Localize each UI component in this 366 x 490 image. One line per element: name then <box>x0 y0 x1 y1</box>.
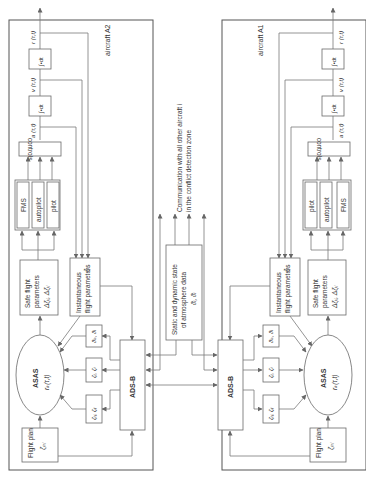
svg-text:∫•dt: ∫•dt <box>331 104 338 114</box>
svg-text:ζᵢ, ζᵢ: ζᵢ, ζᵢ <box>91 367 98 378</box>
communication-label-line2: in the conflict detection zone <box>185 130 192 212</box>
svg-text:ADS-B: ADS-B <box>129 376 136 398</box>
svg-text:ϑₒ, ϑᵢ: ϑₒ, ϑᵢ <box>91 330 97 343</box>
svg-text:ζᵢ, ζᵢ: ζᵢ, ζᵢ <box>268 367 275 378</box>
svg-text:∫•dt: ∫•dt <box>38 104 45 114</box>
svg-text:ζᵢⱼ, ζᵢⱼ: ζᵢⱼ, ζᵢⱼ <box>91 407 98 420</box>
aircraft-a2-label: aircraft A2 <box>104 24 111 56</box>
asas-ellipse-a2 <box>16 335 64 415</box>
position-label-a1: r (τ,t) <box>338 31 344 44</box>
svg-text:Safe flight: Safe flight <box>24 279 32 308</box>
svg-text:autopilot: autopilot <box>323 197 331 222</box>
svg-text:Instantaneous: Instantaneous <box>75 271 82 313</box>
svg-text:ζₚⱼ: ζₚⱼ <box>39 442 47 450</box>
svg-text:rₖ(τ,t): rₖ(τ,t) <box>331 374 339 390</box>
svg-text:ζᵢⱼ, ζᵢⱼ: ζᵢⱼ, ζᵢⱼ <box>268 407 275 420</box>
svg-text:∫•dt: ∫•dt <box>331 57 338 67</box>
svg-text:parameters: parameters <box>33 274 41 308</box>
svg-text:rₖ(τ,t): rₖ(τ,t) <box>43 374 51 390</box>
svg-text:ζₚⱼ: ζₚⱼ <box>327 442 335 450</box>
svg-text:Safe flight: Safe flight <box>312 279 320 308</box>
velocity-label-a2: v (τ,t) <box>30 78 36 92</box>
svg-text:Instantaneous: Instantaneous <box>275 271 282 313</box>
aircraft-a1-label: aircraft A1 <box>257 24 264 56</box>
svg-text:pilot: pilot <box>308 200 316 212</box>
velocity-label-a1: v (τ,t) <box>338 78 344 92</box>
position-label-a2: r (τ,t) <box>30 31 36 44</box>
controls-box-a1 <box>308 142 350 156</box>
svg-text:autopilot: autopilot <box>35 197 43 222</box>
asas-ellipse-a1 <box>304 335 352 415</box>
aircraft-a2-group: aircraft A2 ∫•dt ∫•dt r (τ,t) v (τ,t) a … <box>9 8 153 470</box>
svg-text:ASAS: ASAS <box>32 368 39 388</box>
svg-text:Δζᵢⱼ, Δζᵢⱼ: Δζᵢⱼ, Δζᵢⱼ <box>331 285 339 309</box>
svg-text:pilot: pilot <box>50 200 58 212</box>
svg-text:parameters: parameters <box>321 274 329 308</box>
center-group: Communication with all other aircraft i … <box>146 104 217 385</box>
svg-text:Static and dynamic state: Static and dynamic state <box>171 264 179 335</box>
acceleration-label-a1: a (τ,t) <box>338 123 344 138</box>
svg-text:FMS: FMS <box>20 198 27 212</box>
svg-text:Flight plan: Flight plan <box>315 428 323 458</box>
svg-text:ADS-B: ADS-B <box>227 376 234 398</box>
svg-text:ϑᵢ, ϑᵢ: ϑᵢ, ϑᵢ <box>190 292 197 305</box>
svg-text:∫•dt: ∫•dt <box>38 57 45 67</box>
svg-text:ASAS: ASAS <box>320 368 327 388</box>
controls-box-a2 <box>19 142 61 156</box>
svg-text:Flight plan: Flight plan <box>27 428 35 458</box>
asas-block-diagram: aircraft A2 ∫•dt ∫•dt r (τ,t) v (τ,t) a … <box>0 0 366 490</box>
svg-text:FMS: FMS <box>340 198 347 212</box>
acceleration-label-a2: a (τ,t) <box>30 123 36 138</box>
svg-text:of atmosphere data: of atmosphere data <box>180 272 188 328</box>
aircraft-a1-group: aircraft A1 ∫•dt ∫•dt r (τ,t) v (τ,t) a … <box>218 8 366 470</box>
svg-text:Δζᵢⱼ, Δζᵢⱼ: Δζᵢⱼ, Δζᵢⱼ <box>43 285 51 309</box>
communication-label-line1: Communication with all other aircraft i <box>176 104 183 212</box>
svg-text:ϑₒ, ϑᵢ: ϑₒ, ϑᵢ <box>268 330 274 343</box>
